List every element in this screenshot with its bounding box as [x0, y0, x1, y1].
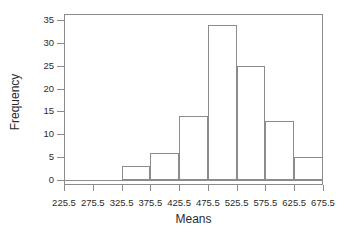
x-tick-mark [179, 185, 180, 191]
x-tick-mark [208, 185, 209, 191]
y-tick-label: 35 [14, 15, 54, 25]
x-tick-mark [323, 185, 324, 191]
plot-frame [64, 14, 323, 185]
y-tick-mark [57, 66, 64, 67]
histogram-figure: Means Frequency 05101520253035225.5275.5… [0, 0, 346, 243]
y-tick-mark [57, 180, 64, 181]
y-tick-mark [57, 43, 64, 44]
x-tick-mark [93, 185, 94, 191]
y-tick-mark [57, 89, 64, 90]
y-tick-label: 5 [14, 152, 54, 162]
y-tick-mark [57, 20, 64, 21]
y-tick-label: 0 [14, 175, 54, 185]
x-tick-mark [237, 185, 238, 191]
y-tick-label: 15 [14, 106, 54, 116]
y-tick-mark [57, 134, 64, 135]
y-tick-label: 10 [14, 129, 54, 139]
baseline-zero-line [64, 180, 323, 181]
x-tick-label: 675.5 [306, 197, 340, 208]
y-tick-mark [57, 157, 64, 158]
x-axis-title: Means [64, 212, 323, 226]
x-tick-mark [150, 185, 151, 191]
y-tick-label: 25 [14, 61, 54, 71]
x-tick-mark [294, 185, 295, 191]
x-tick-mark [64, 185, 65, 191]
x-tick-mark [122, 185, 123, 191]
y-tick-mark [57, 111, 64, 112]
y-tick-label: 20 [14, 84, 54, 94]
y-tick-label: 30 [14, 38, 54, 48]
x-tick-mark [265, 185, 266, 191]
